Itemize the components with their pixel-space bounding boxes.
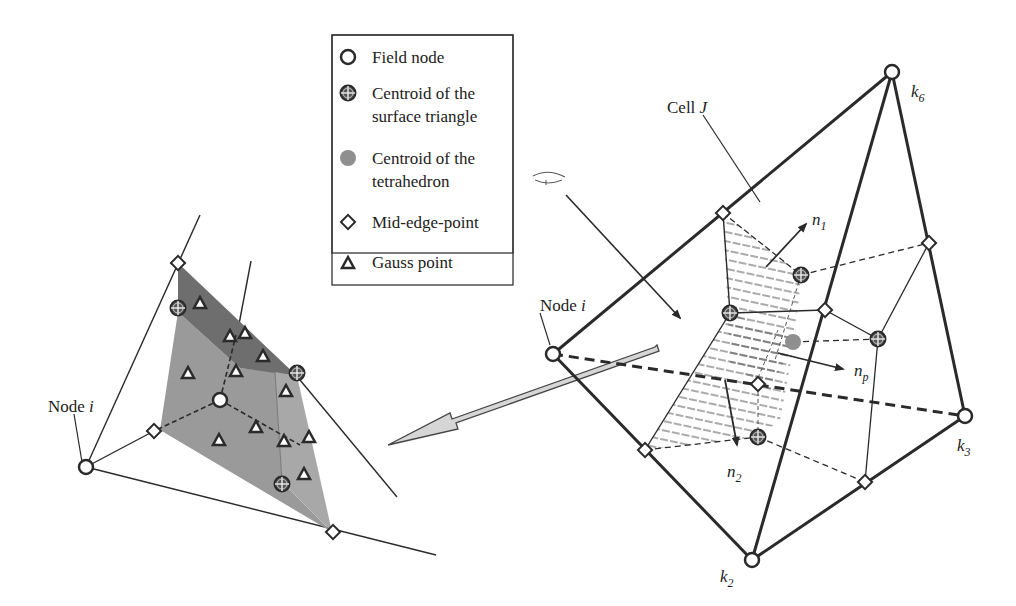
field-node-icon [213,393,227,407]
n1-label: n1 [812,210,827,233]
diagram-canvas: Field node Centroid of the surface trian… [0,0,1016,606]
gauss-point-icon [342,257,354,268]
centroid-surface-triangle-icon [723,306,738,321]
legend: Field node Centroid of the surface trian… [332,35,513,272]
right-view-tetrahedra: Cell J Node i k6 k3 k2 n1 np n2 [533,65,972,590]
centroid-surface-triangle-icon [341,86,356,101]
n2-label: n2 [727,462,742,485]
view-transfer-arrow [388,345,659,445]
legend-label: Centroid of the [372,149,475,168]
centroid-tetrahedron-icon [340,150,356,166]
k3-label: k3 [957,436,971,459]
field-node-icon [79,460,93,474]
centroid-tetrahedron-icon [785,334,801,350]
node-i-field-node-icon [546,347,560,361]
k6-field-node-icon [885,65,899,79]
cell-j-label: Cell J [667,98,709,117]
centroid-surface-triangle-icon [171,301,186,316]
centroid-surface-triangle-icon [275,477,290,492]
legend-item-gauss-point: Gauss point [342,253,453,272]
mid-edge-point-icon [818,303,832,317]
node-i-label: Node i [48,397,94,416]
legend-label: Gauss point [372,253,453,272]
np-label: np [854,361,869,384]
field-node-icon [341,50,355,64]
node-i-label: Node i [540,296,586,315]
k2-field-node-icon [745,553,759,567]
k3-field-node-icon [958,409,972,423]
normal-n1-arrow [766,224,806,267]
node-leader-line [74,414,82,462]
centroid-surface-triangle-icon [290,366,305,381]
legend-label: Mid-edge-point [372,213,479,232]
legend-label: tetrahedron [372,172,450,191]
legend-label: Centroid of the [372,84,475,103]
mid-edge-point-icon [922,236,936,250]
k6-label: k6 [911,82,925,105]
centroid-surface-triangle-icon [751,430,766,445]
legend-label: Field node [372,48,444,67]
legend-label: surface triangle [372,107,477,126]
centroid-surface-triangle-icon [871,332,886,347]
k2-label: k2 [720,567,734,590]
eye-icon [533,172,565,185]
centroid-surface-triangle-icon [794,268,809,283]
mid-edge-point-icon [147,424,161,438]
hatched-face-lower [645,313,795,450]
